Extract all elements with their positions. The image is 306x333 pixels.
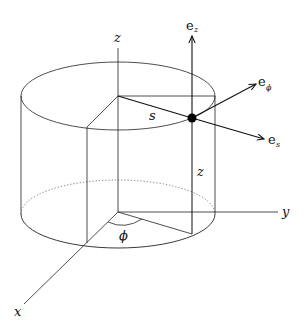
svg-text:z: z: [193, 25, 199, 34]
svg-text:s: s: [276, 140, 280, 149]
cylindrical-coordinates-diagram: z y x s z ϕ e z e ϕ e s: [0, 0, 306, 333]
e-s-label: e s: [268, 132, 280, 149]
angle-label: ϕ: [119, 228, 128, 243]
height-label: z: [196, 164, 204, 179]
e-phi-vector: [192, 84, 256, 118]
cylinder-bottom-front: [21, 214, 215, 248]
e-s-vector: [192, 118, 264, 139]
svg-text:e: e: [258, 74, 266, 89]
svg-text:e: e: [268, 132, 276, 147]
top-x-line: [87, 96, 118, 127]
y-axis-label: y: [281, 204, 290, 219]
radial-label: s: [149, 108, 156, 123]
phi-arc: [108, 219, 142, 225]
x-axis-label: x: [14, 304, 22, 319]
radial-line-bottom: [118, 212, 192, 234]
e-phi-label: e ϕ: [258, 74, 272, 92]
svg-text:e: e: [186, 18, 194, 33]
e-z-label: e z: [186, 18, 199, 34]
x-axis: [24, 212, 118, 304]
point-marker: [188, 114, 197, 123]
z-axis-label: z: [113, 30, 121, 45]
svg-text:ϕ: ϕ: [266, 83, 272, 92]
